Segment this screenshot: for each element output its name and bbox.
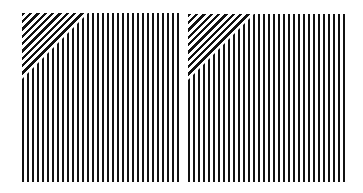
left-grating-panel <box>22 13 179 182</box>
right-grating-panel <box>188 14 345 182</box>
